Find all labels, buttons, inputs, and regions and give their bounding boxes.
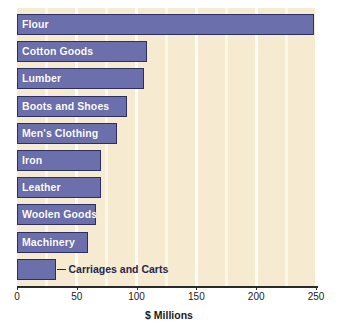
tick-mark — [316, 286, 317, 290]
bar-row: Woolen Goods — [17, 204, 317, 225]
bar-row: Machinery — [17, 232, 317, 253]
bar-label: Flour — [22, 14, 49, 35]
bar-label: Leather — [22, 177, 61, 198]
bar-row: Boots and Shoes — [17, 96, 317, 117]
bar-row: Iron — [17, 150, 317, 171]
tick-label: 200 — [236, 291, 276, 302]
tick-mark — [256, 286, 257, 290]
bar-row: Cotton Goods — [17, 41, 317, 62]
tick-mark — [77, 286, 78, 290]
bar-label: Carriages and Carts — [68, 259, 168, 280]
tick-mark — [196, 286, 197, 290]
tick-label: 50 — [57, 291, 97, 302]
bar-chart: FlourCotton GoodsLumberBoots and ShoesMe… — [0, 0, 338, 334]
tick-label: 100 — [117, 291, 157, 302]
bar-row: Lumber — [17, 68, 317, 89]
bar-label: Boots and Shoes — [22, 96, 109, 117]
bar-row: Men's Clothing — [17, 123, 317, 144]
tick-mark — [17, 286, 18, 290]
bar-label: Men's Clothing — [22, 123, 98, 144]
x-axis-label: $ Millions — [0, 309, 338, 321]
bar-row: Leather — [17, 177, 317, 198]
bar-label: Iron — [22, 150, 42, 171]
tick-label: 0 — [0, 291, 37, 302]
leader-line — [57, 269, 66, 271]
tick-label: 150 — [176, 291, 216, 302]
bar-label: Lumber — [22, 68, 61, 89]
tick-label: 250 — [296, 291, 336, 302]
tick-mark — [137, 286, 138, 290]
bar-label: Woolen Goods — [22, 204, 97, 225]
bar-row: Carriages and Carts — [17, 259, 317, 280]
bar-flour[interactable] — [17, 14, 314, 35]
bar-label: Cotton Goods — [22, 41, 93, 62]
bar-label: Machinery — [22, 232, 75, 253]
x-axis-line — [17, 286, 318, 288]
bar-carriages-and-carts[interactable] — [17, 259, 56, 280]
plot-area: FlourCotton GoodsLumberBoots and ShoesMe… — [17, 8, 317, 286]
bar-row: Flour — [17, 14, 317, 35]
